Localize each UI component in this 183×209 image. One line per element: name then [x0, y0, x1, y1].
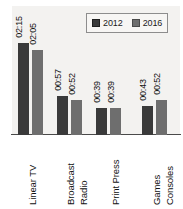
bar-chart: 2012 2016 02:15 02:05 00:57 00:52 00:39: [0, 0, 183, 209]
bar-games-consoles-2012: [142, 106, 153, 135]
bar-value-linear-tv-2012: 02:15: [15, 16, 24, 38]
bar-wrap-broadcast-radio-2012: 00:57: [57, 96, 68, 135]
category-label-broadcast: Broadcast: [66, 163, 76, 205]
category-label-print-press: Print Press: [111, 160, 121, 205]
bar-wrap-games-consoles-2012: 00:43: [142, 106, 153, 135]
bar-value-print-press-2012: 00:39: [93, 81, 102, 103]
category-label-linear-tv: Linear TV: [28, 165, 38, 205]
bar-print-press-2012: [96, 108, 107, 135]
bar-print-press-2016: [110, 108, 121, 135]
bar-games-consoles-2016: [156, 100, 167, 135]
bar-value-games-consoles-2016: 00:52: [153, 73, 162, 95]
category-label-consoles: Consoles: [165, 166, 175, 205]
bar-linear-tv-2016: [32, 50, 43, 135]
bar-value-broadcast-radio-2012: 00:57: [54, 69, 63, 91]
legend-label-2012: 2012: [103, 19, 123, 28]
bar-wrap-linear-tv-2012: 02:15: [18, 43, 29, 135]
bar-group-linear-tv: 02:15 02:05: [18, 43, 43, 135]
legend-label-2016: 2016: [143, 19, 163, 28]
bar-wrap-games-consoles-2016: 00:52: [156, 100, 167, 135]
legend-item-2012: 2012: [92, 19, 123, 28]
legend-swatch-2012: [92, 19, 100, 27]
bar-group-print-press: 00:39 00:39: [96, 108, 121, 135]
legend-swatch-2016: [132, 19, 140, 27]
bar-linear-tv-2012: [18, 43, 29, 135]
legend-item-2016: 2016: [132, 19, 163, 28]
bar-broadcast-radio-2016: [71, 100, 82, 135]
bar-group-broadcast-radio: 00:57 00:52: [57, 96, 82, 135]
category-label-games: Games: [152, 175, 162, 205]
bar-value-games-consoles-2012: 00:43: [139, 79, 148, 101]
bar-wrap-linear-tv-2016: 02:05: [32, 50, 43, 135]
bar-group-games-consoles: 00:43 00:52: [142, 100, 167, 135]
bar-wrap-broadcast-radio-2016: 00:52: [71, 100, 82, 135]
bar-value-broadcast-radio-2016: 00:52: [68, 73, 77, 95]
bar-wrap-print-press-2012: 00:39: [96, 108, 107, 135]
bar-wrap-print-press-2016: 00:39: [110, 108, 121, 135]
chart-legend: 2012 2016: [86, 13, 168, 33]
bar-value-linear-tv-2016: 02:05: [29, 23, 38, 45]
bar-value-print-press-2016: 00:39: [107, 81, 116, 103]
bar-broadcast-radio-2012: [57, 96, 68, 135]
category-label-radio: Radio: [79, 181, 89, 205]
